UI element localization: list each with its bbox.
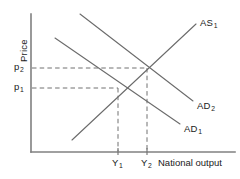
- output-tick-y2-sub: 2: [147, 162, 151, 169]
- curve-label-ad1-base: AD: [184, 123, 198, 134]
- curve-label-as1-sub: 1: [213, 22, 218, 29]
- ad-as-diagram: Price p2 p1 Y1 Y2 National output AS1 AD…: [0, 0, 240, 179]
- x-axis-label: National output: [158, 158, 222, 168]
- price-tick-p1-sub: 1: [19, 86, 23, 93]
- price-tick-p2: p2: [14, 62, 24, 72]
- output-tick-y2: Y2: [141, 158, 152, 168]
- curve-label-ad2-sub: 2: [211, 105, 216, 112]
- curve-label-as1: AS1: [200, 18, 218, 28]
- curve-label-ad2-base: AD: [197, 100, 211, 111]
- output-tick-y1: Y1: [112, 158, 123, 168]
- price-tick-p1: p1: [14, 82, 24, 92]
- curve-label-ad2: AD2: [197, 101, 215, 111]
- curve-label-as1-base: AS: [200, 17, 213, 28]
- curve-label-ad1-sub: 1: [198, 128, 203, 135]
- output-tick-y1-sub: 1: [118, 162, 122, 169]
- price-tick-p2-sub: 2: [19, 66, 23, 73]
- y-axis-label: Price: [19, 39, 29, 62]
- curve-label-ad1: AD1: [184, 124, 202, 134]
